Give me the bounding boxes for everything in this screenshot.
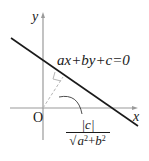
right-angle-marker-icon [53, 72, 61, 81]
radicand: a2+b2 [76, 132, 106, 148]
y-axis-arrow-icon [41, 12, 45, 18]
x-axis-label: x [133, 110, 139, 124]
distance-denominator: √a2+b2 [64, 133, 112, 147]
distance-leader-curve [59, 96, 82, 114]
distance-formula-label: |c| √a2+b2 [64, 118, 112, 147]
y-axis-label: y [32, 10, 38, 24]
perpendicular-segment [43, 77, 63, 108]
line-equation-label: ax+by+c=0 [57, 53, 130, 68]
origin-label: O [33, 111, 43, 125]
exponent-b: 2 [102, 134, 106, 143]
x-axis [10, 106, 138, 110]
distance-point-to-line-diagram: y x O ax+by+c=0 |c| √a2+b2 [0, 0, 149, 161]
distance-numerator: |c| [64, 118, 112, 132]
